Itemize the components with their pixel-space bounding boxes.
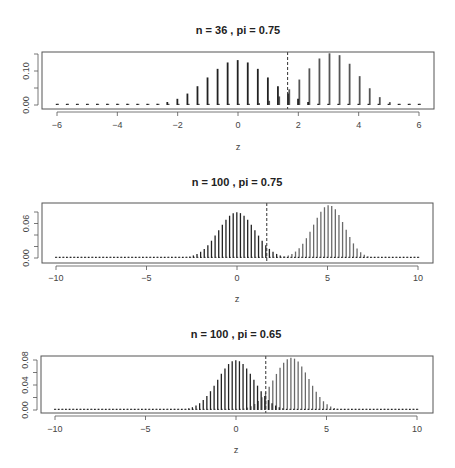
panel-2-xlabel: z [235,293,240,304]
y-tick-label: 0.00 [20,401,30,419]
x-tick-label: 6 [416,120,421,130]
y-axis: 0.000.10 [21,54,38,114]
y-tick-label: 0.10 [21,62,31,80]
bars [57,53,420,105]
panel-3-title: n = 100 , pi = 0.65 [191,328,282,340]
x-tick-label: −2 [173,120,183,130]
panel-2-title: n = 100 , pi = 0.75 [192,176,283,188]
x-axis: −10−50510 [48,266,423,283]
y-tick-label: 0.04 [20,376,30,394]
panel-3: n = 100 , pi = 0.65 −10−505100.000.040.0… [20,328,433,455]
x-tick-label: 2 [296,120,301,130]
x-tick-label: −4 [112,120,122,130]
bars [56,205,419,258]
y-axis: 0.000.06 [21,212,38,267]
x-tick-label: 10 [412,424,422,434]
x-tick-label: −5 [140,424,150,434]
x-tick-label: 0 [234,273,239,283]
x-axis: −10−50510 [47,416,422,434]
panel-1: n = 36 , pi = 0.75 −6−4−202460.000.10 z [21,24,434,152]
x-tick-label: 0 [235,120,240,130]
panel-3-plot: −10−505100.000.040.08 [20,351,433,434]
x-tick-label: 5 [325,273,330,283]
x-tick-label: 4 [356,120,361,130]
figure: n = 36 , pi = 0.75 −6−4−202460.000.10 z … [0,0,455,468]
panel-2: n = 100 , pi = 0.75 −10−505100.000.06 z [21,176,433,304]
x-tick-label: −10 [48,273,63,283]
x-tick-label: 0 [233,424,238,434]
panel-1-title: n = 36 , pi = 0.75 [196,24,280,36]
x-tick-label: −6 [52,120,62,130]
y-tick-label: 0.00 [21,249,31,267]
y-tick-label: 0.00 [21,96,31,114]
plot-frame [42,203,433,263]
x-tick-label: −5 [141,273,151,283]
panel-3-xlabel: z [234,444,239,455]
x-tick-label: 5 [324,424,329,434]
plot-frame [41,356,433,413]
bars [55,358,418,410]
panel-2-plot: −10−505100.000.06 [21,203,433,283]
y-axis: 0.000.040.08 [20,351,37,419]
x-axis: −6−4−20246 [52,112,422,130]
y-tick-label: 0.08 [20,351,30,369]
x-tick-label: 10 [413,273,423,283]
x-tick-label: −10 [47,424,62,434]
y-tick-label: 0.06 [21,215,31,233]
panel-1-plot: −6−4−202460.000.10 [21,52,434,130]
panel-1-xlabel: z [236,141,241,152]
